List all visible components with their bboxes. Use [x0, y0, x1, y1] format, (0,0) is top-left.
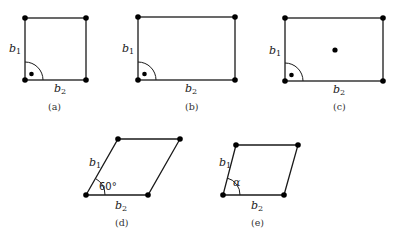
caption-a: (a) — [48, 101, 61, 112]
angle-label-e: α — [233, 176, 241, 189]
lattice-point — [233, 142, 239, 148]
label-b1-b: b1 — [122, 42, 134, 56]
lattice-point — [115, 136, 121, 142]
caption-b: (b) — [185, 101, 199, 112]
lattice-diagram: b1 b2 (a) b1 b2 (b) b1 b2 (c) — [0, 0, 399, 232]
right-angle-arc-c — [285, 63, 303, 81]
label-b2-e: b2 — [251, 199, 263, 213]
lattice-point — [220, 192, 226, 198]
right-angle-dot-a — [29, 72, 34, 77]
right-angle-arc-b — [138, 62, 156, 80]
lattice-point — [232, 77, 238, 83]
lattice-point — [83, 15, 89, 21]
lattice-point — [22, 15, 28, 21]
figure-e-oblique-lattice: α b1 b2 (e) — [219, 142, 301, 228]
lattice-point — [281, 192, 287, 198]
angle-label-d: 60° — [99, 181, 117, 192]
lattice-point — [282, 15, 288, 21]
label-b2-b: b2 — [185, 82, 197, 96]
lattice-point — [177, 136, 183, 142]
lattice-point — [22, 77, 28, 83]
label-b1-d: b1 — [89, 156, 101, 170]
figure-a-square-lattice: b1 b2 (a) — [9, 15, 89, 112]
figure-d-hexagonal-lattice: 60° b1 b2 (d) — [83, 136, 183, 228]
label-b1-e: b1 — [219, 156, 231, 170]
figure-c-centered-rectangular-lattice: b1 b2 (c) — [269, 15, 386, 112]
right-angle-arc-a — [25, 62, 43, 80]
caption-d: (d) — [115, 217, 129, 228]
label-b2-d: b2 — [115, 199, 127, 213]
caption-e: (e) — [251, 217, 264, 228]
lattice-point — [295, 142, 301, 148]
label-b2-a: b2 — [54, 82, 66, 96]
unit-cell-a — [25, 18, 86, 80]
lattice-point — [380, 15, 386, 21]
lattice-point — [83, 192, 89, 198]
right-angle-dot-c — [289, 73, 294, 78]
lattice-point — [83, 77, 89, 83]
lattice-point — [145, 192, 151, 198]
caption-c: (c) — [333, 101, 346, 112]
label-b1-a: b1 — [9, 42, 21, 56]
lattice-point — [232, 14, 238, 20]
lattice-point — [135, 77, 141, 83]
lattice-point — [135, 14, 141, 20]
right-angle-dot-b — [142, 72, 147, 77]
label-b1-c: b1 — [269, 44, 281, 58]
unit-cell-b — [138, 17, 235, 80]
label-b2-c: b2 — [333, 83, 345, 97]
center-lattice-point — [332, 47, 337, 52]
lattice-point — [282, 78, 288, 84]
figure-b-rectangular-lattice: b1 b2 (b) — [122, 14, 238, 112]
lattice-point — [380, 78, 386, 84]
